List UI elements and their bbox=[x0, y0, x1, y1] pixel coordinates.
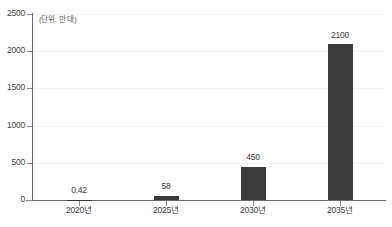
bar-2025 bbox=[154, 196, 179, 200]
x-category-label-2020: 2020년 bbox=[54, 206, 104, 215]
unit-annotation: (단위: 만 대) bbox=[39, 16, 76, 24]
bar-2035 bbox=[328, 44, 353, 200]
y-tick-mark-0 bbox=[27, 200, 32, 201]
bar-value-label-2025: 58 bbox=[141, 182, 191, 191]
bar-value-label-2030: 450 bbox=[228, 153, 278, 162]
y-tick-mark-2000 bbox=[27, 51, 32, 52]
y-tick-label-500: 500 bbox=[1, 158, 25, 167]
y-tick-mark-1500 bbox=[27, 88, 32, 89]
y-tick-label-2000: 2000 bbox=[1, 46, 25, 55]
y-tick-mark-1000 bbox=[27, 126, 32, 127]
bar-2030 bbox=[241, 167, 266, 201]
y-tick-label-0: 0 bbox=[1, 195, 25, 204]
bar-value-label-2035: 2100 bbox=[315, 31, 365, 40]
x-category-label-2035: 2035년 bbox=[315, 206, 365, 215]
y-tick-label-2500: 2500 bbox=[1, 9, 25, 18]
x-category-label-2030: 2030년 bbox=[228, 206, 278, 215]
y-tick-label-1000: 1000 bbox=[1, 121, 25, 130]
y-tick-mark-2500 bbox=[27, 14, 32, 15]
gridline-2500 bbox=[33, 14, 384, 15]
bar-value-label-2020: 0.42 bbox=[54, 186, 104, 195]
x-axis-line bbox=[26, 200, 386, 201]
y-axis-line bbox=[32, 13, 33, 201]
y-tick-label-1500: 1500 bbox=[1, 83, 25, 92]
x-category-label-2025: 2025년 bbox=[141, 206, 191, 215]
y-tick-mark-500 bbox=[27, 163, 32, 164]
bar-chart: (단위: 만 대) 2500 2000 1500 1000 500 0 0.42… bbox=[0, 0, 392, 227]
